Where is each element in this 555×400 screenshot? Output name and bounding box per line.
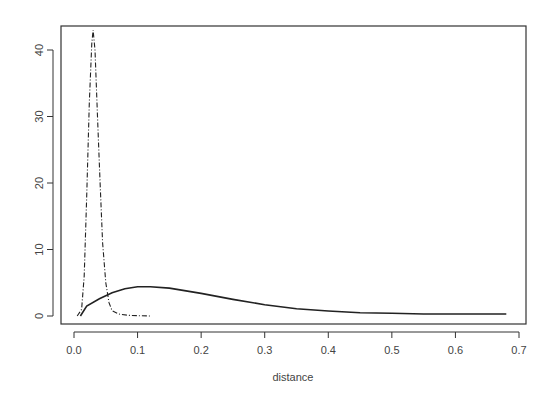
x-tick-label: 0.6 bbox=[448, 344, 463, 356]
x-tick-label: 0.0 bbox=[66, 344, 81, 356]
x-axis-title: distance bbox=[273, 371, 314, 383]
dashdot-density-line bbox=[77, 30, 150, 316]
y-tick-label: 0 bbox=[33, 313, 45, 319]
plot-frame bbox=[61, 26, 526, 324]
x-tick-label: 0.1 bbox=[130, 344, 145, 356]
y-axis: 010203040 bbox=[33, 44, 53, 319]
x-tick-label: 0.3 bbox=[257, 344, 272, 356]
x-tick-label: 0.2 bbox=[193, 344, 208, 356]
y-tick-label: 20 bbox=[33, 177, 45, 189]
x-axis: 0.00.10.20.30.40.50.60.7 bbox=[66, 332, 526, 356]
y-tick-label: 30 bbox=[33, 110, 45, 122]
solid-density-line bbox=[80, 287, 506, 316]
y-tick-label: 40 bbox=[33, 44, 45, 56]
x-tick-label: 0.7 bbox=[511, 344, 526, 356]
y-tick-label: 10 bbox=[33, 243, 45, 255]
x-tick-label: 0.4 bbox=[321, 344, 336, 356]
x-tick-label: 0.5 bbox=[384, 344, 399, 356]
series-layer bbox=[77, 30, 506, 316]
density-chart: 0.00.10.20.30.40.50.60.7 010203040 dista… bbox=[0, 0, 555, 400]
